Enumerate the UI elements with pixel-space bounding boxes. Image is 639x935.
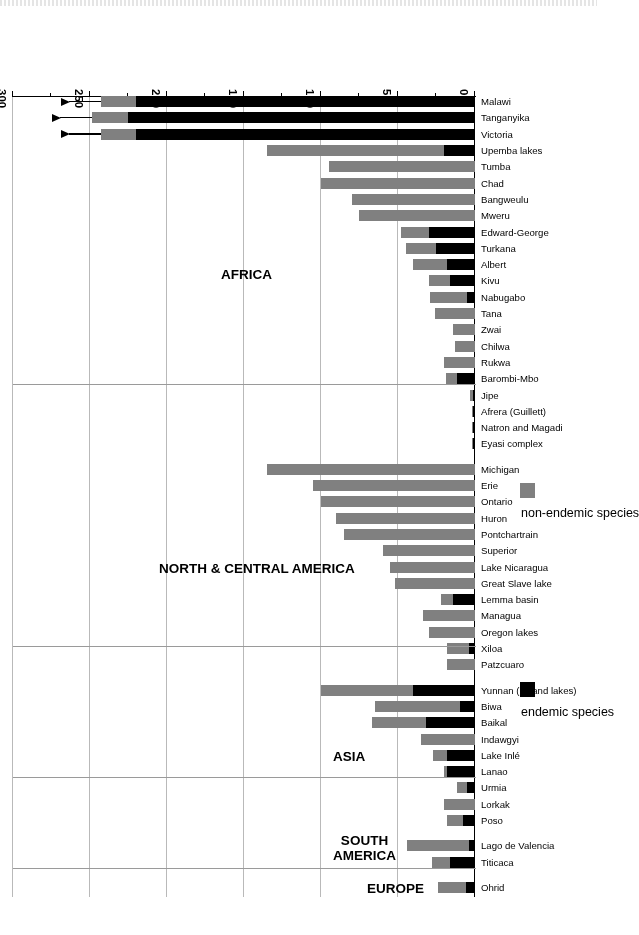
bar-segment-non-endemic — [352, 194, 475, 205]
bar-segment-non-endemic — [321, 685, 413, 696]
bar-row — [13, 496, 475, 507]
category-label: Superior — [481, 545, 517, 556]
region-title-line: AMERICA — [333, 848, 396, 863]
bar-segment-non-endemic — [435, 308, 475, 319]
bar-row — [13, 840, 475, 851]
category-label: Biwa — [481, 701, 502, 712]
bar-segment-non-endemic — [447, 815, 462, 826]
region-separator — [13, 777, 476, 778]
category-label: Natron and Magadi — [481, 422, 563, 433]
category-label: Tanganyika — [481, 113, 530, 124]
bar-row — [13, 480, 475, 491]
bar-segment-non-endemic — [92, 113, 129, 124]
category-label: Kivu — [481, 276, 500, 287]
bar-row — [13, 324, 475, 335]
bar-segment-endemic — [467, 783, 475, 794]
category-label: Pontchartrain — [481, 529, 538, 540]
bar-segment-non-endemic — [395, 578, 475, 589]
over-range-arrow — [61, 96, 101, 107]
bar-row — [13, 783, 475, 794]
bar-segment-non-endemic — [101, 96, 136, 107]
bar-segment-non-endemic — [344, 529, 475, 540]
bar-row — [13, 529, 475, 540]
category-label: Upemba lakes — [481, 145, 542, 156]
category-label: Titicaca — [481, 857, 514, 868]
bar-segment-endemic — [444, 145, 475, 156]
over-range-arrow — [61, 129, 101, 140]
region-title-line: SOUTH — [333, 833, 396, 848]
category-label: Barombi-Mbo — [481, 373, 539, 384]
bar-row — [13, 643, 475, 654]
bar-row — [13, 406, 475, 417]
category-label: Erie — [481, 480, 498, 491]
category-label: Albert — [481, 259, 506, 270]
category-label: Victoria — [481, 129, 513, 140]
bar-segment-endemic — [463, 815, 475, 826]
category-label: Lanao — [481, 766, 508, 777]
category-label: Urmia — [481, 783, 507, 794]
bar-segment-non-endemic — [401, 227, 429, 238]
bar-segment-endemic — [469, 643, 475, 654]
bar-row — [13, 611, 475, 622]
category-label: Indawgyi — [481, 734, 519, 745]
bar-segment-non-endemic — [455, 341, 475, 352]
bar-segment-non-endemic — [438, 882, 466, 893]
category-label: Malawi — [481, 96, 511, 107]
bar-segment-non-endemic — [390, 562, 475, 573]
bar-segment-endemic — [136, 129, 475, 140]
category-label: Mweru — [481, 210, 510, 221]
region-title: SOUTHAMERICA — [333, 833, 396, 863]
category-label: Afrera (Guillett) — [481, 406, 546, 417]
bar-row — [13, 513, 475, 524]
category-label: Great Slave lake — [481, 578, 552, 589]
category-label: Baikal — [481, 717, 507, 728]
bar-segment-non-endemic — [372, 717, 426, 728]
bar-segment-non-endemic — [360, 210, 476, 221]
bar-segment-non-endemic — [444, 766, 447, 777]
category-label: Michigan — [481, 464, 519, 475]
category-label: Bangweulu — [481, 194, 528, 205]
bar-row — [13, 390, 475, 401]
bar-row — [13, 627, 475, 638]
bar-segment-endemic — [473, 390, 475, 401]
bar-segment-non-endemic — [472, 406, 474, 417]
bar-segment-endemic — [466, 882, 475, 893]
category-label: Lago de Valencia — [481, 840, 554, 851]
bar-segment-non-endemic — [446, 373, 457, 384]
category-label: Eyasi complex — [481, 439, 543, 450]
bar-segment-endemic — [473, 439, 475, 450]
bar-segment-non-endemic — [472, 422, 474, 433]
bar-row — [13, 194, 475, 205]
category-label: Edward-George — [481, 227, 549, 238]
bar-segment-non-endemic — [421, 734, 475, 745]
plot-area: 050100150200250300 MalawiTanganyikaVicto… — [13, 97, 475, 897]
bar-segment-non-endemic — [447, 659, 475, 670]
category-label: Tana — [481, 308, 502, 319]
axis-tick-label: 300 — [0, 89, 8, 108]
bar-row — [13, 210, 475, 221]
bar-segment-endemic — [453, 594, 475, 605]
bar-row — [13, 292, 475, 303]
bar-row — [13, 178, 475, 189]
legend-swatch — [520, 682, 535, 697]
bar-row — [13, 857, 475, 868]
region-separator — [13, 868, 476, 869]
category-label: Turkana — [481, 243, 516, 254]
bar-row — [13, 113, 475, 124]
category-label: Xiloa — [481, 643, 502, 654]
over-range-arrow — [52, 113, 92, 124]
bar-row — [13, 129, 475, 140]
category-label: Tumba — [481, 161, 511, 172]
category-label: Chad — [481, 178, 504, 189]
region-title: NORTH & CENTRAL AMERICA — [159, 561, 355, 576]
bar-segment-endemic — [437, 243, 476, 254]
bar-row — [13, 161, 475, 172]
bar-segment-non-endemic — [470, 390, 473, 401]
category-label: Lemma basin — [481, 594, 539, 605]
category-label: Nabugabo — [481, 292, 525, 303]
bar-segment-non-endemic — [453, 324, 475, 335]
bar-segment-non-endemic — [267, 145, 444, 156]
axis-tick-label: 0 — [458, 89, 470, 95]
region-title: EUROPE — [367, 882, 424, 897]
bar-segment-endemic — [469, 840, 475, 851]
